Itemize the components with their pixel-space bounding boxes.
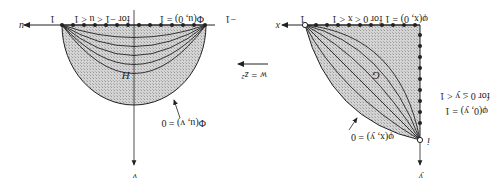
phi-arc-condition: Φ(u, v) = 0 <box>161 117 206 129</box>
left-panel-w-plane: u v −1 1 Φ(u, 0) = 1 for −1 < u < 1 H Φ(… <box>19 10 236 180</box>
left-endpoint-label: −1 <box>225 14 236 25</box>
conformal-mapping-figure: u v −1 1 Φ(u, 0) = 1 for −1 < u < 1 H Φ(… <box>0 0 503 180</box>
phi-top-range: for −1 < u < 1 <box>74 14 130 25</box>
phi-y-condition: φ(0, y) = 1 <box>445 105 488 117</box>
mapping-label: w = z² <box>241 70 267 81</box>
boundary-dots-y <box>418 33 422 125</box>
region-h-label: H <box>121 70 131 82</box>
region-g-label: G <box>372 70 380 82</box>
v-axis-label: v <box>133 172 137 180</box>
u-axis-label: u <box>19 21 24 32</box>
phi-top-condition: Φ(u, 0) = 1 <box>159 13 204 25</box>
y-axis-label: y <box>419 172 424 180</box>
arc-pointer <box>174 100 180 118</box>
y-endpoint-label: i <box>427 136 430 147</box>
phi-y-range: for 0 ≤ y < 1 <box>440 91 490 102</box>
phi-g-arc-condition: φ(x, y) = 0 <box>351 131 394 143</box>
x-axis-label: x <box>275 21 281 32</box>
phi-x-condition: φ(x, 0) = 1 for 0 < x < 1 <box>332 13 428 25</box>
mapping-arrow-group: w = z² <box>238 64 268 81</box>
x-endpoint-label: 1 <box>300 14 305 25</box>
right-endpoint-label: 1 <box>50 14 55 25</box>
right-panel-z-plane: x y 1 i φ(x, 0) = 1 for 0 < x < 1 G φ(0,… <box>275 13 490 180</box>
arc-pointer-g <box>349 118 357 130</box>
endpoint-i <box>417 137 422 142</box>
